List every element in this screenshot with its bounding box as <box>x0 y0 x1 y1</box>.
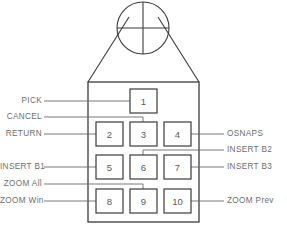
key-10[interactable]: 10 <box>164 189 191 213</box>
key-3-label: 3 <box>141 129 146 140</box>
key-7[interactable]: 7 <box>164 155 191 179</box>
key-1-label: 1 <box>141 96 146 107</box>
key-7-label: 7 <box>175 162 180 173</box>
key-5[interactable]: 5 <box>96 155 123 179</box>
key-5-label: 5 <box>107 162 112 173</box>
callout-cancel: CANCEL <box>0 113 42 121</box>
key-9[interactable]: 9 <box>130 189 157 213</box>
key-2-label: 2 <box>107 129 112 140</box>
key-6-label: 6 <box>141 162 146 173</box>
callout-pick: PICK <box>0 97 42 105</box>
taper-edge-right <box>158 17 199 82</box>
key-6[interactable]: 6 <box>130 155 157 179</box>
key-1[interactable]: 1 <box>130 89 157 113</box>
callout-insert-b2: INSERT B2 <box>227 146 272 154</box>
key-9-label: 9 <box>141 196 146 207</box>
key-8-label: 8 <box>107 196 112 207</box>
crosshair-reticle <box>117 2 169 54</box>
callout-zoom-prev: ZOOM Prev <box>227 197 274 205</box>
taper-edge-left <box>88 17 129 82</box>
callout-return: RETURN <box>0 130 42 138</box>
key-4[interactable]: 4 <box>164 122 191 146</box>
callout-osnaps: OSNAPS <box>227 130 263 138</box>
key-8[interactable]: 8 <box>96 189 123 213</box>
callout-insert-b1: INSERT B1 <box>0 163 42 171</box>
key-10-label: 10 <box>172 196 183 207</box>
key-4-label: 4 <box>175 129 180 140</box>
callout-zoom-win: ZOOM Win <box>0 197 42 205</box>
key-3[interactable]: 3 <box>130 122 157 146</box>
callout-zoom-all: ZOOM All <box>0 180 42 188</box>
key-2[interactable]: 2 <box>96 122 123 146</box>
puck-diagram-canvas: 1 2 3 4 5 6 7 <box>0 0 287 235</box>
callout-insert-b3: INSERT B3 <box>227 163 272 171</box>
